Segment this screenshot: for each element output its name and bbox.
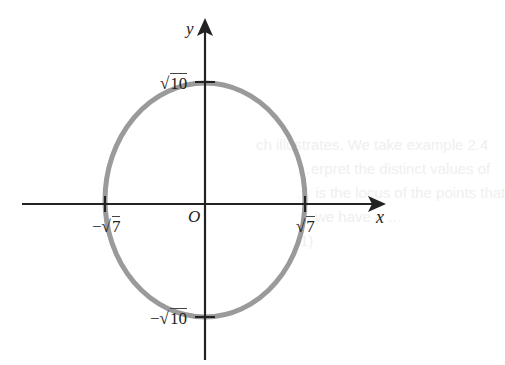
radical-icon: √ <box>102 217 111 236</box>
value: 10 <box>170 308 187 327</box>
sign: − <box>150 309 160 328</box>
tick-label-y-neg: −√10 <box>150 308 187 327</box>
x-axis-label: x <box>376 208 384 226</box>
y-axis-label: y <box>186 20 194 37</box>
tick-label-y-pos: √10 <box>160 73 187 92</box>
origin-label: O <box>188 208 200 225</box>
value: 10 <box>170 73 187 92</box>
value: 7 <box>306 216 315 235</box>
radical-icon: √ <box>160 309 169 328</box>
tick-label-x-neg: −√7 <box>92 216 120 235</box>
radical-icon: √ <box>160 74 169 93</box>
sign: − <box>92 217 102 236</box>
tick-label-x-pos: √7 <box>296 216 315 235</box>
value: 7 <box>112 216 121 235</box>
radical-icon: √ <box>296 217 305 236</box>
